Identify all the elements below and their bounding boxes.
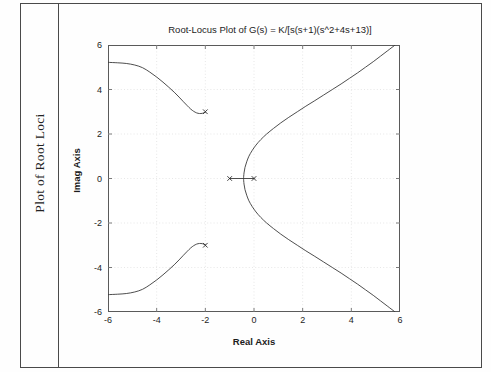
- x-tick-label: 2: [300, 315, 305, 325]
- chart-title: Root-Locus Plot of G(s) = K/[s(s+1)(s^2+…: [60, 24, 480, 35]
- locus-branch: [244, 179, 396, 313]
- page-border-bottom: [20, 367, 482, 368]
- x-tick-label: 0: [251, 315, 256, 325]
- x-tick-label: 6: [397, 315, 402, 325]
- x-tick-label: -4: [153, 315, 161, 325]
- page-border-top: [20, 3, 482, 4]
- y-tick-label: 6: [84, 40, 102, 50]
- margin-caption: Plot of Root Loci: [32, 83, 48, 243]
- x-tick-label: -2: [201, 315, 209, 325]
- plot-canvas: [108, 45, 400, 312]
- x-tick-label: -6: [104, 315, 112, 325]
- scanned-page: Plot of Root Loci Root-Locus Plot of G(s…: [0, 0, 491, 372]
- page-border-left-outer: [20, 3, 21, 368]
- pole-marker-x-icon: [203, 109, 208, 114]
- locus-branch: [244, 45, 396, 179]
- y-tick-label: 0: [84, 174, 102, 184]
- y-tick-label: -4: [84, 263, 102, 273]
- root-locus-figure: Root-Locus Plot of G(s) = K/[s(s+1)(s^2+…: [60, 5, 480, 365]
- page-border-right-outer: [481, 3, 482, 368]
- x-axis-label: Real Axis: [108, 336, 400, 347]
- y-tick-label: 2: [84, 129, 102, 139]
- x-tick-label: 4: [349, 315, 354, 325]
- y-tick-label: -2: [84, 218, 102, 228]
- y-tick-label: 4: [84, 85, 102, 95]
- y-tick-label: -6: [84, 307, 102, 317]
- y-axis-label: Imag Axis: [71, 131, 82, 211]
- page-border-left-inner: [58, 3, 59, 368]
